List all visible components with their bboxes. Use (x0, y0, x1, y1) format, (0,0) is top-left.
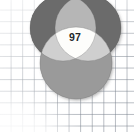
venn-diagram-figure: 97 (0, 0, 134, 132)
triple-intersection-value-label: 97 (62, 31, 88, 43)
venn-svg (0, 0, 134, 132)
